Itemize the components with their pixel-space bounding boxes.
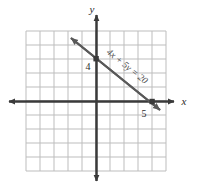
equation-label: 4x + 5y = 20 xyxy=(105,47,150,86)
x-intercept-point xyxy=(149,99,154,104)
y-axis-label: y xyxy=(89,3,95,15)
x-intercept-tick-label: 5 xyxy=(142,108,147,119)
plotted-line-4x-5y-20 xyxy=(71,38,160,110)
y-intercept-tick-label: 4 xyxy=(86,61,91,72)
x-axis-label: x xyxy=(181,95,187,107)
coordinate-plane-figure: 4 5 y x 4x + 5y = 20 xyxy=(0,0,198,188)
graph-canvas: 4 5 y x 4x + 5y = 20 xyxy=(0,0,198,188)
y-intercept-point xyxy=(93,56,98,61)
